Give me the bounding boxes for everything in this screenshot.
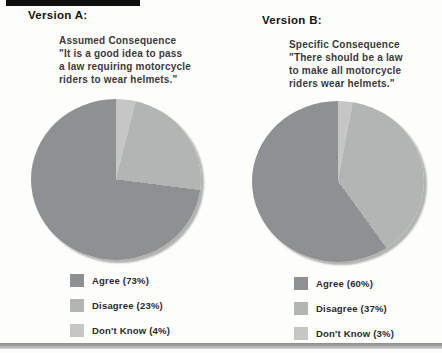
pie-chart-version-a xyxy=(31,99,201,260)
legend-item-disagree: Disagree (37%) xyxy=(294,302,394,315)
legend-label: Don't Know (4%) xyxy=(92,325,170,336)
bottom-divider-rule xyxy=(0,343,442,349)
description-line: Assumed Consequence xyxy=(59,35,176,46)
pie-chart-version-b xyxy=(252,101,424,262)
legend-label: Agree (73%) xyxy=(92,275,149,286)
legend-label: Agree (60%) xyxy=(316,278,373,289)
legend-label: Disagree (23%) xyxy=(92,300,163,311)
version-a-heading: Version A: xyxy=(28,9,87,21)
legend-item-agree: Agree (73%) xyxy=(70,274,170,287)
top-border-bar xyxy=(6,0,140,6)
description-line: "It is a good idea to pass xyxy=(59,48,182,59)
description-line: a law requiring motorcycle xyxy=(59,61,191,72)
legend-item-dont-know: Don't Know (3%) xyxy=(294,327,394,340)
agree-swatch xyxy=(70,274,84,287)
description-line: riders wear helmets." xyxy=(289,78,395,89)
legend-version-b: Agree (60%) Disagree (37%) Don't Know (3… xyxy=(294,277,394,352)
description-line: to make all motorcycle xyxy=(289,65,401,76)
description-line: Specific Consequence xyxy=(289,39,400,50)
legend-version-a: Agree (73%) Disagree (23%) Don't Know (4… xyxy=(70,274,170,349)
version-a-description: Assumed Consequence "It is a good idea t… xyxy=(59,34,191,86)
dont-know-swatch xyxy=(70,324,84,337)
dont-know-swatch xyxy=(294,327,308,340)
agree-swatch xyxy=(294,277,308,290)
version-b-heading: Version B: xyxy=(262,14,322,26)
disagree-swatch xyxy=(294,302,308,315)
version-b-description: Specific Consequence "There should be a … xyxy=(289,38,403,90)
legend-item-disagree: Disagree (23%) xyxy=(70,299,170,312)
description-line: riders to wear helmets." xyxy=(59,74,177,85)
legend-item-dont-know: Don't Know (4%) xyxy=(70,324,170,337)
legend-item-agree: Agree (60%) xyxy=(294,277,394,290)
legend-label: Disagree (37%) xyxy=(316,303,387,314)
legend-label: Don't Know (3%) xyxy=(316,328,394,339)
figure-page: Version A: Assumed Consequence "It is a … xyxy=(0,0,442,353)
description-line: "There should be a law xyxy=(289,52,403,63)
disagree-swatch xyxy=(70,299,84,312)
